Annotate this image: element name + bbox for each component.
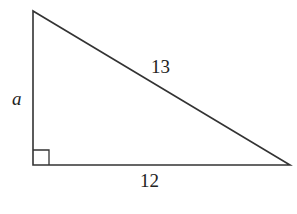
right-angle-marker (33, 150, 49, 165)
triangle (33, 11, 290, 165)
label-side-a: a (12, 88, 22, 109)
label-base: 12 (140, 170, 159, 191)
label-hypotenuse: 13 (151, 56, 170, 77)
right-triangle-diagram: a 13 12 (0, 0, 297, 214)
